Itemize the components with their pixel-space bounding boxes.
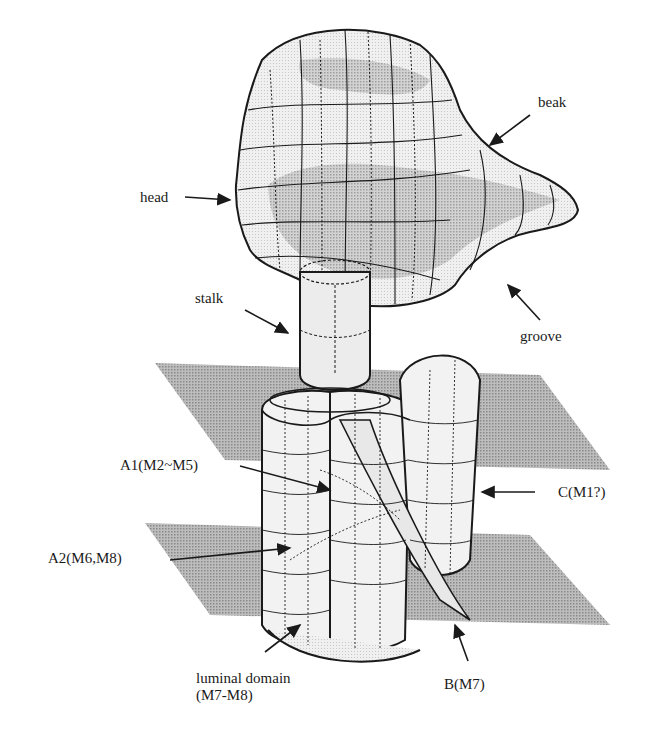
- head-arrow: [185, 197, 230, 200]
- label-head: head: [140, 189, 168, 206]
- b-arrow: [455, 625, 468, 661]
- beak-arrow: [490, 115, 530, 145]
- stalk-domain: [300, 260, 370, 390]
- label-a1: A1(M2~M5): [120, 457, 198, 474]
- groove-arrow: [508, 285, 540, 320]
- label-luminal-line1: luminal domain: [196, 670, 291, 687]
- label-beak: beak: [538, 94, 566, 111]
- label-c: C(M1?): [558, 484, 606, 501]
- head-domain: [236, 30, 578, 306]
- label-luminal-line2: (M7-M8): [196, 687, 253, 704]
- label-groove: groove: [520, 328, 562, 345]
- label-stalk: stalk: [195, 290, 223, 307]
- label-b: B(M7): [444, 676, 485, 693]
- label-a2: A2(M6,M8): [48, 550, 122, 567]
- stalk-arrow: [245, 310, 288, 333]
